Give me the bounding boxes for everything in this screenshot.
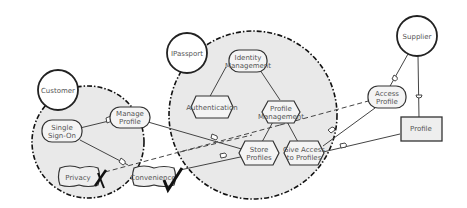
dependency-marker — [340, 143, 346, 148]
svg-text:Privacy: Privacy — [65, 174, 90, 182]
goal-identity-management[interactable]: Identity Management — [225, 50, 271, 72]
svg-text:Manage: Manage — [116, 110, 144, 118]
svg-text:Sign-On: Sign-On — [48, 132, 76, 140]
svg-text:Single: Single — [51, 124, 73, 132]
svg-text:Profile: Profile — [270, 105, 292, 113]
svg-text:Profile: Profile — [119, 118, 141, 126]
softgoal-privacy[interactable]: Privacy — [59, 166, 100, 187]
svg-text:Profile: Profile — [376, 98, 398, 106]
task-give-access-to-profiles[interactable]: Give Access to Profiles — [283, 141, 325, 165]
task-authentication[interactable]: Authentication — [186, 96, 237, 118]
svg-text:Profile: Profile — [410, 125, 432, 133]
dependency-marker — [416, 95, 422, 98]
dependency-marker — [392, 75, 397, 81]
svg-text:Profiles: Profiles — [246, 154, 272, 162]
svg-text:Management: Management — [225, 62, 271, 70]
link-supplier-accessprofile — [389, 54, 408, 88]
diagram-canvas: Customer IPassport Supplier Single Sign-… — [0, 0, 467, 208]
svg-text:Convenience: Convenience — [130, 174, 175, 182]
svg-text:Identity: Identity — [235, 54, 262, 62]
svg-text:Give Access: Give Access — [283, 146, 325, 154]
task-store-profiles[interactable]: Store Profiles — [239, 141, 279, 165]
softgoal-convenience[interactable]: Convenience — [130, 166, 175, 187]
svg-text:Management: Management — [258, 113, 304, 121]
actor-ipassport[interactable]: IPassport — [167, 33, 207, 73]
goal-single-sign-on[interactable]: Single Sign-On — [42, 120, 82, 142]
resource-profile[interactable]: Profile — [401, 117, 442, 141]
svg-text:Store: Store — [250, 146, 269, 154]
actor-supplier[interactable]: Supplier — [397, 16, 437, 56]
link-supplier-profile — [418, 56, 419, 118]
goal-manage-profile[interactable]: Manage Profile — [110, 107, 150, 128]
actor-customer[interactable]: Customer — [38, 70, 78, 110]
svg-text:Authentication: Authentication — [186, 104, 237, 112]
goal-access-profile[interactable]: Access Profile — [368, 86, 406, 108]
actor-ipassport-label: IPassport — [171, 50, 203, 58]
actor-supplier-label: Supplier — [403, 33, 432, 41]
dependency-marker — [220, 153, 226, 158]
svg-text:Access: Access — [375, 90, 399, 98]
svg-text:to Profiles: to Profiles — [287, 154, 322, 162]
actor-customer-label: Customer — [41, 87, 75, 95]
